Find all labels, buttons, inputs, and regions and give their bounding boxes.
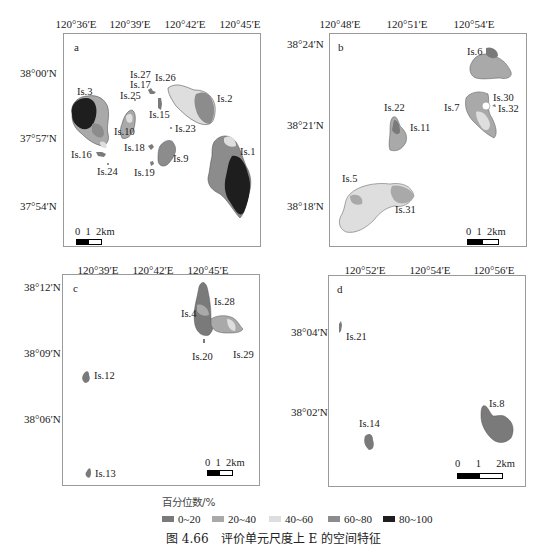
legend-swatch	[162, 516, 174, 522]
island-is3-shape	[72, 96, 109, 148]
island-label: Is.16	[71, 149, 92, 160]
scale-bar	[207, 470, 233, 476]
panel-c-ytick: 38°12′N	[24, 281, 61, 293]
island-label: Is.7	[444, 102, 459, 113]
scale-labels: 0 1 2km	[205, 457, 245, 468]
panel-b-xtick: 120°51′E	[386, 18, 427, 30]
panel-a-xtick: 120°36′E	[55, 18, 96, 30]
island-label: Is.30	[493, 92, 514, 103]
panel-a-ytick: 37°57′N	[20, 132, 57, 144]
island-label: Is.26	[155, 72, 176, 83]
legend-swatch	[383, 516, 395, 522]
map-panel-b: b Is.6 Is.30 Is.7 Is.32 Is.22 Is.11 Is.5…	[329, 33, 527, 247]
map-panel-d: d Is.21 Is.14 Is.8 012km	[328, 275, 526, 487]
island-label: Is.29	[233, 349, 254, 360]
panel-d-ytick: 38°02′N	[291, 406, 328, 418]
island-map-d	[329, 276, 525, 486]
panel-b-ytick: 38°21′N	[287, 119, 324, 131]
figure-caption: 图 4.66 评价单元尺度上 E 的空间特征	[0, 529, 547, 546]
legend-swatch	[328, 516, 340, 522]
island-label: Is.28	[214, 296, 235, 307]
legend-swatch	[269, 516, 281, 522]
island-label: Is.12	[94, 370, 115, 381]
island-label: Is.2	[217, 93, 232, 104]
legend-item-40-60: 40~60	[269, 513, 313, 525]
island-label: Is.14	[359, 418, 380, 429]
panel-b-ytick: 38°24′N	[287, 38, 324, 50]
legend-title: 百分位数/%	[162, 494, 216, 509]
island-label: Is.31	[395, 204, 416, 215]
legend-item-60-80: 60~80	[328, 513, 372, 525]
island-map-b	[330, 34, 526, 246]
island-label: Is.32	[498, 103, 519, 114]
panel-b-xtick: 120°54′E	[453, 18, 494, 30]
island-is2-shape	[168, 85, 215, 125]
panel-a-ytick: 37°54′N	[20, 200, 57, 212]
island-label: Is.10	[114, 126, 135, 137]
island-label: Is.15	[149, 109, 170, 120]
island-label: Is.23	[175, 123, 196, 134]
panel-c-ytick: 38°06′N	[24, 413, 61, 425]
panel-d-ytick: 38°04′N	[291, 326, 328, 338]
scale-labels: 0 1 2km	[75, 226, 115, 237]
legend-item-0-20: 0~20	[162, 513, 200, 525]
panel-c-ytick: 38°09′N	[24, 347, 61, 359]
panel-a-xtick: 120°45′E	[219, 18, 260, 30]
legend-item-80-100: 80~100	[383, 513, 432, 525]
island-label: Is.25	[120, 90, 141, 101]
island-label: Is.17	[130, 79, 151, 90]
island-label: Is.9	[173, 153, 188, 164]
map-panel-a: a	[63, 33, 261, 247]
island-label: Is.13	[95, 468, 116, 479]
island-label: Is.21	[346, 331, 367, 342]
legend-item-20-40: 20~40	[212, 513, 256, 525]
scale-labels: 0 1 2km	[466, 226, 506, 237]
island-label: Is.6	[467, 46, 482, 57]
scale-labels: 012km	[455, 458, 515, 469]
island-label: Is.24	[97, 166, 118, 177]
island-label: Is.18	[124, 142, 145, 153]
scale-bar	[457, 473, 503, 479]
map-panel-c: c Is.4 Is.28 Is.20 Is.29 Is.12 Is.13 0 1…	[62, 274, 260, 486]
island-label: Is.20	[192, 351, 213, 362]
scale-bar	[76, 239, 102, 245]
panel-a-ytick: 38°00′N	[20, 67, 57, 79]
legend-swatch	[212, 516, 224, 522]
panel-a-xtick: 120°42′E	[164, 18, 205, 30]
island-label: Is.22	[384, 102, 405, 113]
island-label: Is.11	[410, 122, 430, 133]
panel-b-xtick: 120°48′E	[319, 18, 360, 30]
island-label: Is.19	[134, 167, 155, 178]
island-label: Is.5	[342, 173, 357, 184]
island-map-a	[64, 34, 260, 246]
island-label: Is.8	[489, 398, 504, 409]
island-label: Is.1	[240, 146, 255, 157]
panel-b-ytick: 38°18′N	[287, 200, 324, 212]
panel-a-xtick: 120°39′E	[109, 18, 150, 30]
scale-bar	[467, 239, 499, 245]
island-label: Is.4	[181, 308, 196, 319]
island-label: Is.3	[77, 86, 92, 97]
